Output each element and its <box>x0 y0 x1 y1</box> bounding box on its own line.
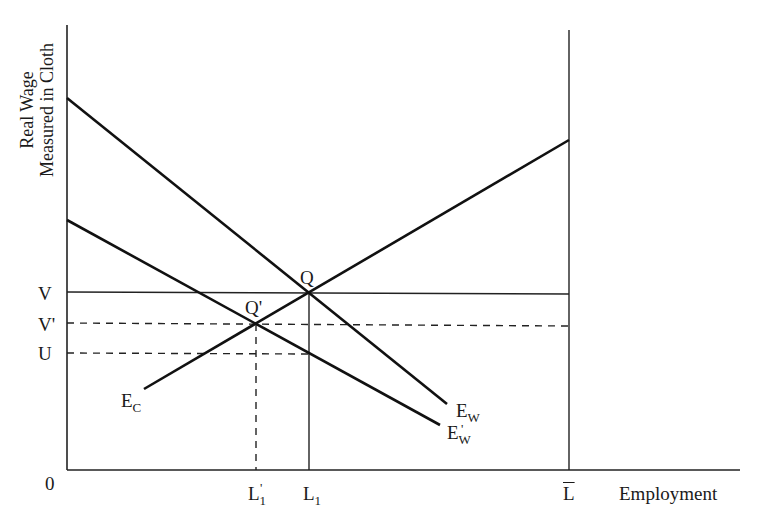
q-label: Q <box>300 268 314 287</box>
ec-label: EC <box>121 391 141 410</box>
l1-prime-label: L1' <box>248 484 268 503</box>
v-prime-label: V' <box>38 315 55 334</box>
l1-base: L <box>303 483 315 504</box>
q-prime-label: Q' <box>245 298 262 317</box>
u-label: U <box>38 344 52 363</box>
v-label: V <box>38 284 52 303</box>
l-bar-label: L <box>563 484 575 503</box>
l1-sub: 1 <box>315 493 322 508</box>
y-axis-label: Real Wage Measured in Cloth <box>17 10 57 210</box>
ec-curve <box>144 140 569 389</box>
l1-label: L1 <box>303 484 321 503</box>
v-prime-dashed-line <box>67 323 569 326</box>
ew-prime-base: E <box>447 422 459 443</box>
u-dashed-line <box>67 353 309 354</box>
l1-prime-sub: 1 <box>260 493 267 508</box>
ew-prime-label: EW' <box>447 423 473 442</box>
ew-base: E <box>456 400 468 421</box>
ec-base: E <box>121 390 133 411</box>
x-axis-label: Employment <box>619 484 717 503</box>
diagram-canvas <box>0 0 763 525</box>
ec-sub: C <box>133 400 142 415</box>
ew-prime-mark: ' <box>461 421 463 436</box>
ew-label: EW <box>456 401 480 420</box>
y-axis-label-line1: Real Wage <box>17 10 37 210</box>
origin-label: 0 <box>45 474 55 493</box>
y-axis-label-line2: Measured in Cloth <box>37 10 57 210</box>
l1-prime-base: L <box>248 483 260 504</box>
v-line <box>67 292 569 294</box>
